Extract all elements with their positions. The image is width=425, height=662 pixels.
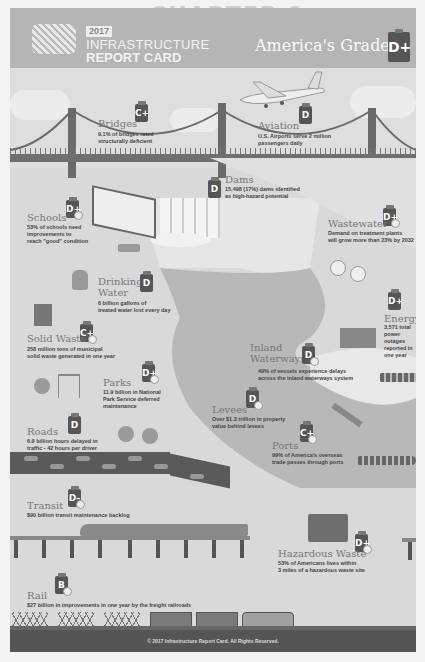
grade-badge-parks: D+ (142, 364, 155, 382)
grade-badge-rail: B (55, 576, 68, 594)
category-desc-aviation: U.S. Airports serve 2 millionpassengers … (258, 133, 331, 147)
container-ship-icon (358, 456, 416, 465)
track-pillar (98, 540, 102, 558)
treatment-tank-icon (330, 260, 346, 276)
category-desc-schools: 53% of schools needimprovements toreach … (27, 224, 88, 245)
tree-icon (142, 428, 158, 444)
category-desc-dams: 15,498 (17%) dams identifiedas high-haza… (225, 186, 300, 200)
track-pillar (14, 540, 18, 558)
hazardous-barrels-icon (308, 514, 348, 542)
dam-waterfall (160, 198, 220, 238)
transit-train-icon (80, 524, 248, 536)
category-desc-energy: 3,571 totalpower outagesreported inone y… (384, 324, 416, 359)
grade-badge-dams: D (208, 180, 221, 198)
car-icon (102, 464, 116, 469)
barge-ship-icon (380, 373, 416, 382)
track-pillar (156, 540, 160, 558)
car-icon (50, 464, 64, 469)
car-icon (128, 456, 142, 461)
category-label-hazardous-waste: Hazardous Waste (278, 548, 366, 559)
category-label-dams: Dams (225, 174, 254, 185)
track-pillar (212, 540, 216, 558)
category-label-solid-waste: Solid Waste (27, 333, 86, 344)
category-label-wastewater: Wastewater (328, 218, 388, 229)
track-pillar (408, 542, 412, 560)
tree-icon (118, 426, 134, 442)
category-label-drinking-water: DrinkingWater (98, 276, 143, 298)
category-desc-hazardous-waste: 53% of Americans lives within3 miles of … (278, 560, 365, 574)
grade-badge-roads: D (68, 416, 81, 434)
category-desc-drinking-water: 6 billion gallons oftreated water lost e… (98, 300, 170, 314)
grade-badge-levees: D (246, 390, 259, 408)
freight-car-icon (104, 612, 140, 626)
grade-badge-drinking-water: D (140, 274, 153, 292)
report-year: 2017 (86, 26, 112, 37)
grade-badge-aviation: D (299, 106, 312, 124)
car-icon (190, 474, 204, 479)
car-icon (24, 456, 38, 461)
freight-car-icon (12, 612, 48, 626)
clipboard-icon: D+ (388, 39, 411, 55)
grade-badge-ports: C+ (300, 424, 313, 442)
category-label-bridges: Bridges (98, 118, 137, 129)
category-label-levees: Levees (212, 404, 247, 415)
category-desc-transit: $90 billion transit maintenance backlog (27, 512, 130, 519)
category-desc-bridges: 9.1% of bridges ratedstructurally defici… (98, 131, 154, 145)
category-desc-inland-waterways: 49% of vessels experience delaysacross t… (258, 368, 353, 382)
category-label-rail: Rail (27, 590, 47, 601)
waterfall-splash (150, 233, 210, 247)
category-label-ports: Ports (272, 440, 298, 451)
grade-badge-energy: D+ (388, 292, 401, 310)
header-band: 2017 INFRASTRUCTURE REPORT CARD America'… (10, 8, 416, 68)
category-desc-roads: 6.9 billion hours delayed intraffic - 42… (27, 438, 98, 452)
grade-badge-transit: D- (68, 489, 81, 507)
category-desc-parks: 11.9 billion in NationalPark Service def… (103, 389, 161, 410)
freight-car-icon (58, 612, 94, 626)
us-map-logo-icon (32, 24, 76, 54)
swing-set-icon (58, 374, 80, 398)
water-tank-icon (72, 270, 88, 290)
overall-grade-badge: D+ (388, 32, 410, 62)
track-pillar (70, 540, 74, 558)
car-icon (154, 464, 168, 469)
grade-badge-schools: D+ (66, 200, 79, 218)
school-bus-icon (118, 244, 140, 252)
title-line2: REPORT CARD (86, 51, 181, 64)
track-pillar (184, 540, 188, 558)
category-label-inland-waterways: InlandWaterways (250, 342, 305, 364)
category-desc-rail: $27 billion in improvements in one year … (27, 602, 191, 609)
category-label-schools: Schools (27, 212, 66, 223)
category-desc-levees: Over $1.3 trillion in propertyvalue behi… (212, 416, 285, 430)
track-pillar (240, 540, 244, 558)
track-pillar (128, 540, 132, 558)
category-desc-wastewater: Demand on treatment plantswill grow more… (328, 230, 414, 244)
footer-copyright: © 2017 Infrastructure Report Card. All R… (10, 630, 416, 652)
trash-bin-icon (34, 304, 52, 326)
category-label-aviation: Aviation (258, 120, 299, 131)
category-label-transit: Transit (27, 500, 63, 511)
overall-grade-label: America's Grade: (255, 36, 395, 55)
track-pillar (42, 540, 46, 558)
grade-badge-inland-waterways: D (302, 346, 315, 364)
infographic-panel: 2017 INFRASTRUCTURE REPORT CARD America'… (10, 8, 416, 652)
tree-icon (34, 378, 50, 394)
treatment-tank-icon (350, 266, 366, 282)
category-desc-ports: 99% of America's overseastrade passes th… (272, 452, 343, 466)
power-plant-icon (340, 328, 376, 348)
car-icon (76, 456, 90, 461)
category-label-energy: Energy (384, 313, 416, 324)
category-label-roads: Roads (27, 426, 58, 437)
category-label-parks: Parks (103, 377, 131, 388)
category-desc-solid-waste: 258 million tons of municipalsolid waste… (27, 346, 115, 360)
